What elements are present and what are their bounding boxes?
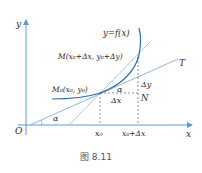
figure-caption: 图 8.11 bbox=[80, 152, 112, 162]
y-axis-label: y bbox=[15, 19, 22, 29]
tick-x0dx-label: x₀+Δx bbox=[122, 129, 146, 138]
point-n-label: N bbox=[140, 93, 149, 103]
point-m-label: M(x₀+Δx, y₀+Δy) bbox=[57, 52, 123, 61]
angle-arc bbox=[41, 120, 42, 125]
origin-label: O bbox=[15, 126, 23, 136]
alpha-top-label: α bbox=[117, 85, 123, 94]
point-m0-label: M₀(x₀, y₀) bbox=[51, 85, 88, 94]
delta-y-label: Δy bbox=[140, 80, 152, 89]
alpha-bottom-label: α bbox=[53, 114, 59, 123]
delta-x-label: Δx bbox=[110, 96, 122, 105]
tangent-label: T bbox=[179, 58, 186, 68]
derivative-geometry-diagram: y x O y=f(x) M(x₀+Δx, y₀+Δy) M₀(x₀, y₀) … bbox=[0, 0, 202, 173]
tick-x0-label: x₀ bbox=[95, 129, 104, 138]
x-axis-label: x bbox=[186, 129, 191, 139]
curve-label: y=f(x) bbox=[102, 28, 130, 38]
